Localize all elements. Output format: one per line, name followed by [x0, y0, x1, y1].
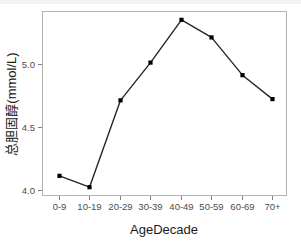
data-point: [57, 174, 61, 178]
y-axis-title: 总胆固醇(mmol/L): [4, 52, 19, 155]
x-tick-label-40-49: 40-49: [169, 201, 193, 212]
y-tick-label-4-0: 4.0: [22, 185, 35, 196]
x-axis-ticks: [60, 196, 273, 200]
line-chart-canvas: 5.0 4.5 4.0 0-9 10-19 20-29 30-39 40-49 …: [0, 0, 301, 242]
y-tick-label-4-5: 4.5: [22, 122, 35, 133]
y-axis-ticks: [38, 65, 42, 191]
y-axis-tick-labels: 5.0 4.5 4.0: [22, 59, 35, 196]
x-tick-label-30-39: 30-39: [138, 201, 162, 212]
data-point: [240, 73, 244, 77]
x-tick-label-10-19: 10-19: [77, 201, 101, 212]
x-tick-label-70-plus: 70+: [264, 201, 281, 212]
data-point: [118, 98, 122, 102]
x-tick-label-0-9: 0-9: [53, 201, 67, 212]
y-tick-label-5-0: 5.0: [22, 59, 35, 70]
x-tick-label-60-69: 60-69: [230, 201, 254, 212]
data-point: [209, 35, 213, 39]
x-tick-label-50-59: 50-59: [199, 201, 223, 212]
chart-figure: 5.0 4.5 4.0 0-9 10-19 20-29 30-39 40-49 …: [0, 0, 301, 242]
data-point: [270, 97, 274, 101]
x-axis-title: AgeDecade: [130, 222, 198, 237]
x-tick-label-20-29: 20-29: [108, 201, 132, 212]
data-point: [148, 61, 152, 65]
x-axis-tick-labels: 0-9 10-19 20-29 30-39 40-49 50-59 60-69 …: [53, 201, 281, 212]
data-point: [179, 18, 183, 22]
data-point: [87, 185, 91, 189]
plot-panel-background: [42, 11, 287, 196]
